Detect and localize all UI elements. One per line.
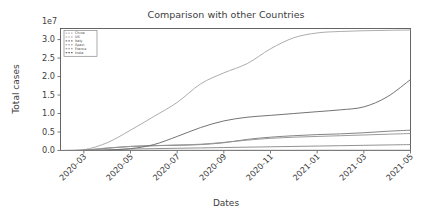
x-axis-title: Dates [213,198,240,208]
plot-area-frame [61,29,411,151]
y-tick-label: 1.5 [42,90,55,100]
chart-legend[interactable]: ChinaUSItalySpainFranceIndia [64,31,97,57]
y-tick-label: 2.5 [42,53,55,63]
y-tick-label: 3.0 [42,34,55,44]
comparison-line-chart: Comparison with other Countries 1e7 0.00… [0,0,422,215]
y-tick-label: 1.0 [42,108,55,118]
y-tick-label: 0.5 [42,127,55,137]
y-axis-title: Total cases [11,64,21,115]
y-axis-offset-label: 1e7 [42,17,57,26]
legend-label-india[interactable]: India [75,51,83,55]
chart-title: Comparison with other Countries [148,9,305,20]
y-tick-label: 0.0 [42,145,55,155]
y-tick-label: 2.0 [42,71,55,81]
chart-figure: Comparison with other Countries 1e7 0.00… [0,0,422,215]
